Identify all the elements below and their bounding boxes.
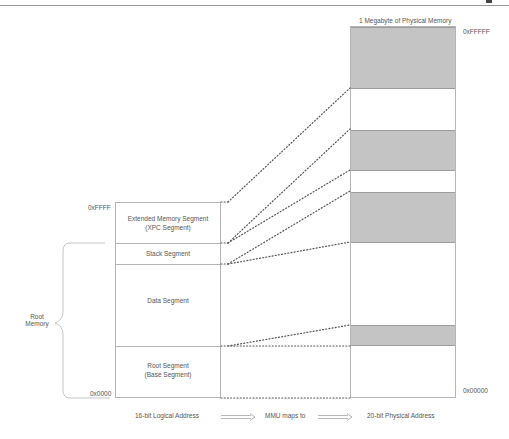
root-memory-brace xyxy=(55,243,110,398)
legend-mmu-maps-to: MMU maps to xyxy=(265,412,305,419)
arrow-right-icon xyxy=(221,413,257,421)
legend-physical-address: 20-bit Physical Address xyxy=(367,412,435,419)
arrow-right-icon xyxy=(318,413,354,421)
legend-logical-address: 16-bit Logical Address xyxy=(135,412,199,419)
mapping-lines xyxy=(0,0,509,439)
